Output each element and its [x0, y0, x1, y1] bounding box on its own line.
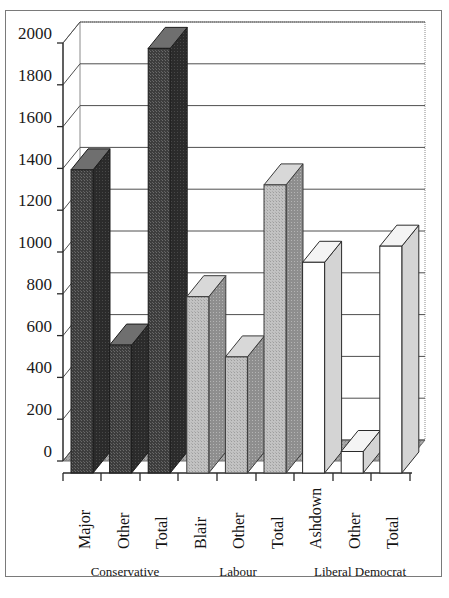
- x-axis-ticks: [63, 473, 410, 481]
- ytick-label-1200: 1200: [2, 191, 52, 211]
- bar-liberal-democrat-total: [380, 225, 419, 473]
- ytick-label-800: 800: [2, 275, 52, 295]
- ytick-label-1400: 1400: [2, 150, 52, 170]
- bar-labour-other: [225, 336, 264, 473]
- category-label-major: Major: [76, 510, 94, 549]
- bar-conservative-other: [110, 324, 149, 473]
- category-label-other-2: Other: [230, 513, 248, 549]
- ytick-label-600: 600: [2, 317, 52, 337]
- category-label-other-3: Other: [346, 513, 364, 549]
- bar-labour-blair: [187, 276, 226, 473]
- group-label-liberal-democrat: Liberal Democrat: [290, 564, 430, 580]
- bar-conservative-total: [148, 27, 187, 473]
- ytick-label-1600: 1600: [2, 108, 52, 128]
- bar-chart: [0, 0, 449, 598]
- bar-labour-total: [264, 164, 303, 473]
- bar-conservative-major: [71, 149, 110, 473]
- ytick-label-2000: 2000: [2, 24, 52, 44]
- ytick-label-400: 400: [2, 358, 52, 378]
- category-label-total-1: Total: [153, 516, 171, 549]
- group-label-labour: Labour: [183, 564, 293, 580]
- category-label-total-2: Total: [269, 516, 287, 549]
- group-label-conservative: Conservative: [65, 564, 185, 580]
- y-axis-ticks: [57, 43, 63, 461]
- ytick-label-1000: 1000: [2, 233, 52, 253]
- ytick-label-200: 200: [2, 400, 52, 420]
- ytick-label-1800: 1800: [2, 66, 52, 86]
- category-label-other-1: Other: [115, 513, 133, 549]
- category-label-total-3: Total: [384, 516, 402, 549]
- category-label-blair: Blair: [192, 517, 210, 549]
- category-label-ashdown: Ashdown: [307, 488, 325, 549]
- ytick-label-0: 0: [2, 442, 52, 462]
- bar-liberal-democrat-ashdown: [303, 241, 342, 473]
